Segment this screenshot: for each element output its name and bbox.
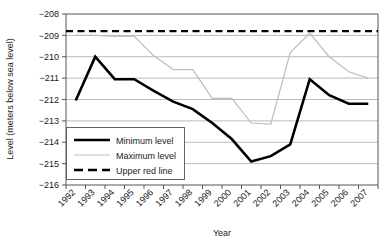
legend-label-maximum-level: Maximum level <box>116 151 176 161</box>
legend-label-minimum-level: Minimum level <box>116 136 174 146</box>
y-axis-title: Level (meters below sea level) <box>5 38 15 160</box>
x-axis-tick-label: 2002 <box>251 187 272 208</box>
x-axis-tick-marks <box>66 185 378 189</box>
y-axis-tick-labels: −208−209−210−211−212−213−214−215−216 <box>39 9 59 190</box>
y-axis-tick-label: −209 <box>39 31 59 41</box>
x-axis-tick-label: 1999 <box>192 187 213 208</box>
y-axis-tick-label: −211 <box>39 73 59 83</box>
x-axis-tick-label: 2000 <box>212 187 233 208</box>
x-axis-tick-label: 1996 <box>134 187 155 208</box>
x-axis-tick-label: 2005 <box>309 187 330 208</box>
x-axis-tick-label: 2003 <box>270 187 291 208</box>
y-axis-tick-marks <box>62 14 66 185</box>
x-axis-tick-label: 1992 <box>56 187 77 208</box>
y-axis-tick-label: −213 <box>39 116 59 126</box>
line-chart: −208−209−210−211−212−213−214−215−216 199… <box>0 0 386 247</box>
chart-legend: Minimum level Maximum level Upper red li… <box>67 128 185 180</box>
x-axis-tick-label: 1993 <box>75 187 96 208</box>
x-axis-tick-label: 1997 <box>153 187 174 208</box>
x-axis-tick-label: 2004 <box>290 187 311 208</box>
y-axis-tick-label: −216 <box>39 180 59 190</box>
y-axis-tick-label: −215 <box>39 159 59 169</box>
x-axis-title: Year <box>213 228 231 238</box>
x-axis-tick-label: 1998 <box>173 187 194 208</box>
x-axis-tick-label: 2007 <box>348 187 369 208</box>
x-axis-tick-label: 1995 <box>114 187 135 208</box>
x-axis-tick-label: 2001 <box>231 187 252 208</box>
y-axis-tick-label: −214 <box>39 137 59 147</box>
legend-label-upper-red-line: Upper red line <box>116 166 173 176</box>
y-axis-tick-label: −212 <box>39 95 59 105</box>
y-axis-tick-label: −210 <box>39 52 59 62</box>
chart-container: −208−209−210−211−212−213−214−215−216 199… <box>0 0 386 247</box>
x-axis-tick-label: 2006 <box>329 187 350 208</box>
x-axis-tick-labels: 1992199319941995199619971998199920002001… <box>56 187 370 208</box>
x-axis-tick-label: 1994 <box>95 187 116 208</box>
y-axis-tick-label: −208 <box>39 9 59 19</box>
